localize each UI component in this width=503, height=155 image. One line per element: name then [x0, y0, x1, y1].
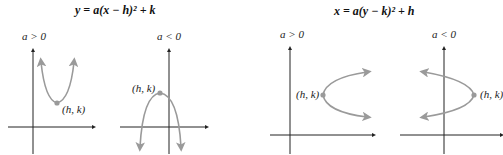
condition-label: a < 0 — [157, 30, 181, 42]
parabola-branch — [424, 72, 474, 95]
parabola-branch — [57, 62, 74, 103]
panel-up: a > 0 (h, k) — [8, 30, 94, 154]
panel-down: a < 0 (h, k) — [120, 30, 207, 154]
parabola-diagram: y = a(x − h)² + k x = a(y − k)² + h a > … — [0, 0, 503, 155]
vertex-point — [157, 90, 162, 95]
vertex-label: (h, k) — [296, 88, 320, 101]
panel-left: a < 0 (h, k) — [400, 28, 503, 154]
condition-label: a < 0 — [432, 28, 456, 40]
vertex-point — [320, 92, 325, 97]
parabola-branch — [160, 93, 181, 147]
equation-vertical: y = a(x − h)² + k — [73, 3, 156, 17]
parabola-branch — [41, 62, 57, 103]
vertex-point — [471, 92, 476, 97]
equation-horizontal: x = a(y − k)² + h — [333, 4, 415, 18]
vertex-label: (h, k) — [62, 103, 86, 116]
vertex-label: (h, k) — [480, 88, 503, 101]
condition-label: a > 0 — [22, 30, 46, 42]
vertex-label: (h, k) — [132, 82, 156, 95]
panel-right: a > 0 (h, k) — [270, 28, 374, 154]
parabola-branch — [323, 72, 367, 95]
parabola-branch — [424, 95, 474, 117]
parabola-branch — [323, 95, 367, 117]
parabola-branch — [140, 93, 160, 147]
vertex-point — [54, 100, 59, 105]
condition-label: a > 0 — [280, 28, 304, 40]
